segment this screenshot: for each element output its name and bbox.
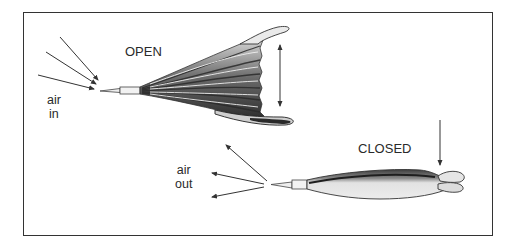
- air-in-label: air in: [47, 93, 61, 121]
- bellows-diagram: OPEN CLOSED air in air out: [0, 0, 518, 247]
- closed-bellows: [271, 169, 464, 199]
- diagram-canvas: [0, 0, 518, 247]
- air-out-line2: out: [175, 177, 192, 191]
- open-bellows: [100, 26, 293, 125]
- closed-label: CLOSED: [358, 142, 411, 156]
- air-in-line2: in: [47, 107, 61, 121]
- air-out-line1: air: [175, 163, 192, 177]
- open-label: OPEN: [125, 45, 162, 59]
- air-out-arrows: [212, 145, 267, 197]
- air-out-label: air out: [175, 163, 192, 191]
- air-in-line1: air: [47, 93, 61, 107]
- air-in-arrows: [38, 37, 98, 89]
